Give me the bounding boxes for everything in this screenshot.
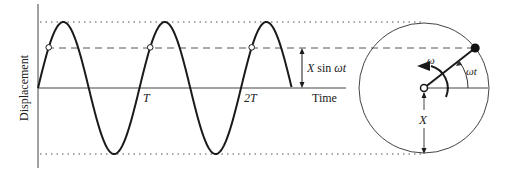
y-axis-label: Displacement [17,54,31,121]
projection-marker [147,45,153,51]
phasor-tip-point [471,43,480,52]
circle-center-point [421,85,428,92]
projection-dimension-arrow [300,48,305,88]
omega-label: ω [427,54,435,66]
radius-label: X [418,112,428,127]
tick-label-T: T [143,91,151,105]
x-axis-label: Time [312,91,337,105]
harmonic-motion-diagram: T 2T Displacement Time X sin ωt ωt ω X [0,0,509,173]
projection-marker [249,45,255,51]
projection-marker [46,45,52,51]
angle-label: ωt [466,65,478,77]
projection-label: X sin ωt [306,61,347,75]
tick-label-2T: 2T [244,91,258,105]
